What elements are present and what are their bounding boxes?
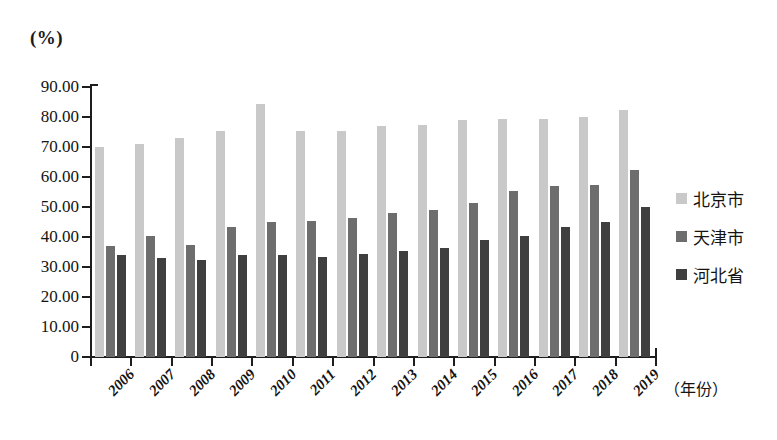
bar xyxy=(561,227,570,358)
x-axis-tick-label: 2019 xyxy=(630,366,663,399)
y-axis-tick xyxy=(82,86,90,88)
x-axis-tick-label: 2006 xyxy=(105,366,138,399)
x-axis-tick xyxy=(373,357,375,366)
y-axis-tick-label: 0 xyxy=(71,347,80,367)
x-axis-tick-label: 2010 xyxy=(266,366,299,399)
chart-legend: 北京市天津市河北省 xyxy=(676,186,744,287)
bar-group xyxy=(332,87,372,357)
y-axis-tick-label: 50.00 xyxy=(41,197,79,217)
x-axis-tick xyxy=(453,357,455,366)
y-axis-tick-label: 30.00 xyxy=(41,257,79,277)
legend-swatch-hebei xyxy=(676,269,687,280)
y-axis-tick xyxy=(82,266,90,268)
y-axis-tick xyxy=(82,236,90,238)
bar xyxy=(539,119,548,358)
y-axis-tick-label: 20.00 xyxy=(41,287,79,307)
bar xyxy=(197,260,206,358)
bar xyxy=(440,248,449,358)
y-axis-unit-label: (%) xyxy=(30,27,63,49)
x-axis-tick xyxy=(534,357,536,366)
y-axis-tick-label: 80.00 xyxy=(41,107,79,127)
bar xyxy=(216,131,225,358)
bar-group xyxy=(494,87,534,357)
bar xyxy=(337,131,346,358)
bar xyxy=(601,222,610,357)
bar xyxy=(630,170,639,358)
bar xyxy=(146,236,155,358)
y-axis-tick xyxy=(82,206,90,208)
bar xyxy=(590,185,599,358)
bar xyxy=(157,258,166,357)
legend-item-beijing[interactable]: 北京市 xyxy=(676,186,744,211)
bar-group xyxy=(413,87,453,357)
y-axis-tick xyxy=(82,146,90,148)
x-axis-tick-label: 2008 xyxy=(186,366,219,399)
x-axis-tick xyxy=(332,357,334,366)
bar-group xyxy=(90,87,130,357)
bar xyxy=(399,251,408,358)
bar-group xyxy=(130,87,170,357)
x-axis-tick xyxy=(494,357,496,366)
x-axis-tick xyxy=(211,357,213,366)
bar xyxy=(348,218,357,358)
x-axis-tick xyxy=(413,357,415,366)
y-axis-tick xyxy=(82,356,90,358)
x-axis-tick xyxy=(251,357,253,366)
x-axis-tick xyxy=(615,357,617,366)
x-axis-tick xyxy=(292,357,294,366)
bar-group xyxy=(292,87,332,357)
x-axis-tick-label: 2018 xyxy=(589,366,622,399)
bar-group xyxy=(251,87,291,357)
bar xyxy=(238,255,247,357)
bar xyxy=(418,125,427,358)
bar xyxy=(377,126,386,357)
x-axis-tick-label: 2011 xyxy=(307,366,340,399)
bar xyxy=(186,245,195,358)
bar xyxy=(509,191,518,358)
y-axis-tick-label: 40.00 xyxy=(41,227,79,247)
bar-group xyxy=(574,87,614,357)
bar-group xyxy=(534,87,574,357)
y-axis-tick-label: 70.00 xyxy=(41,137,79,157)
bar xyxy=(318,257,327,358)
bar xyxy=(480,240,489,357)
bar xyxy=(641,207,650,357)
y-axis-tick-label: 10.00 xyxy=(41,317,79,337)
bar-group xyxy=(211,87,251,357)
bar xyxy=(227,227,236,358)
bar xyxy=(296,131,305,358)
y-axis-tick xyxy=(82,116,90,118)
bar xyxy=(117,255,126,357)
x-axis-tick-label: 2013 xyxy=(387,366,420,399)
y-axis-tick-label: 60.00 xyxy=(41,167,79,187)
bar xyxy=(550,186,559,357)
bar xyxy=(95,147,104,357)
legend-item-hebei[interactable]: 河北省 xyxy=(676,262,744,287)
bar xyxy=(106,246,115,357)
legend-swatch-tianjin xyxy=(676,231,687,242)
x-axis-tick-label: 2014 xyxy=(428,366,461,399)
bar xyxy=(278,255,287,357)
bar xyxy=(307,221,316,358)
legend-item-tianjin[interactable]: 天津市 xyxy=(676,224,744,249)
bar xyxy=(135,144,144,357)
bar xyxy=(469,203,478,358)
legend-swatch-beijing xyxy=(676,193,687,204)
bar xyxy=(429,210,438,357)
x-axis-tick-label: 2015 xyxy=(468,366,501,399)
x-axis-tick xyxy=(171,357,173,366)
plot-area: 010.0020.0030.0040.0050.0060.0070.0080.0… xyxy=(90,87,655,357)
legend-label: 北京市 xyxy=(693,186,744,211)
bar-group xyxy=(171,87,211,357)
bar-group xyxy=(615,87,655,357)
bar xyxy=(267,222,276,357)
bar-group xyxy=(373,87,413,357)
x-axis-tick xyxy=(130,357,132,366)
x-axis-tick xyxy=(90,357,92,366)
bar xyxy=(359,254,368,358)
bar-group xyxy=(453,87,493,357)
bar xyxy=(498,119,507,358)
bar xyxy=(619,110,628,358)
bar xyxy=(388,213,397,357)
legend-label: 河北省 xyxy=(693,262,744,287)
